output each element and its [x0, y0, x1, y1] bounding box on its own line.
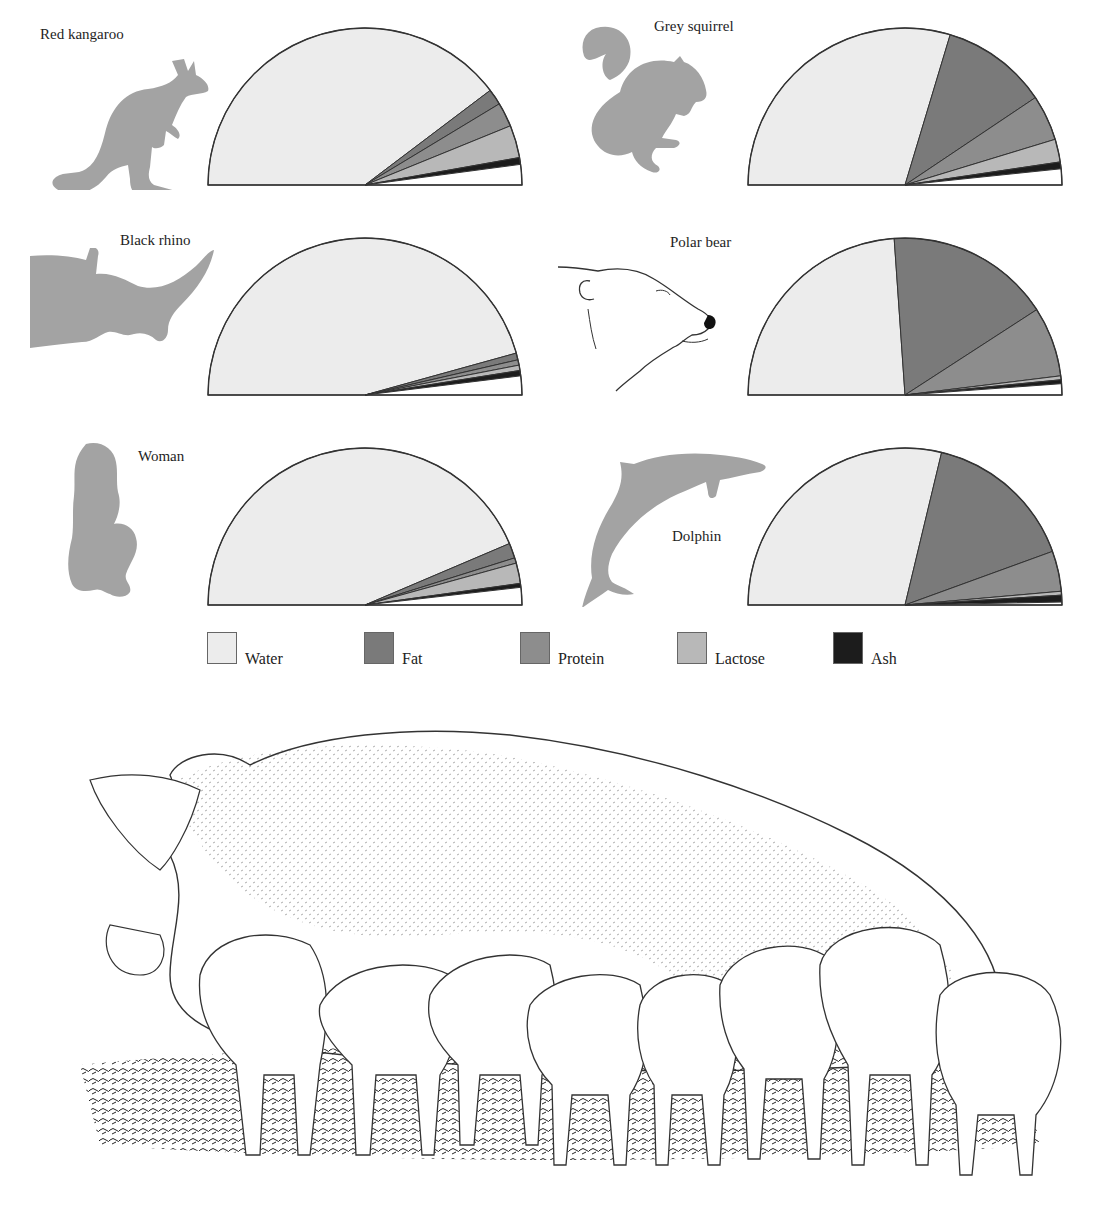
protein-swatch-icon [520, 632, 550, 664]
pie-chart-woman [200, 440, 530, 615]
pie-chart-black-rhino [200, 230, 530, 405]
dolphin-silhouette-icon [560, 452, 770, 607]
pie-slice-water [748, 238, 905, 395]
polar-bear-drawing-icon [558, 265, 728, 400]
label-red-kangaroo: Red kangaroo [40, 26, 124, 43]
rhino-silhouette-icon [30, 248, 220, 368]
pie-chart-grey-squirrel [740, 20, 1070, 195]
legend: Water Fat Protein Lactose Ash [207, 630, 927, 674]
label-black-rhino: Black rhino [120, 232, 190, 249]
legend-label-lactose: Lactose [715, 650, 765, 668]
legend-label-fat: Fat [402, 650, 422, 668]
woman-silhouette-icon [52, 442, 152, 604]
sow-snout [106, 925, 164, 975]
legend-label-protein: Protein [558, 650, 604, 668]
sow-nursing-piglets-illustration [60, 705, 1080, 1185]
legend-label-water: Water [245, 650, 283, 668]
legend-label-ash: Ash [871, 650, 897, 668]
pie-chart-red-kangaroo [200, 20, 530, 195]
fat-swatch-icon [364, 632, 394, 664]
label-polar-bear: Polar bear [670, 234, 731, 251]
pie-chart-polar-bear [740, 230, 1070, 405]
squirrel-silhouette-icon [556, 22, 726, 182]
lactose-swatch-icon [677, 632, 707, 664]
water-swatch-icon [207, 632, 237, 664]
kangaroo-silhouette-icon [34, 55, 209, 190]
ash-swatch-icon [833, 632, 863, 664]
label-dolphin: Dolphin [672, 528, 721, 545]
pie-chart-dolphin [740, 440, 1070, 615]
